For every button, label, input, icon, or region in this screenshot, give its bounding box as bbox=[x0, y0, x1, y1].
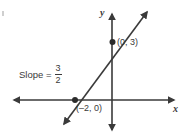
point-label-y-intercept: (0, 3) bbox=[117, 38, 138, 47]
point-marker-y-intercept bbox=[110, 39, 116, 45]
slope-annotation: Slope = 3 2 bbox=[19, 64, 62, 85]
graph-figure: y x (0, 3) (–2, 0) Slope = 3 2 bbox=[0, 0, 190, 139]
axis-label-y: y bbox=[100, 8, 104, 18]
point-label-x-intercept: (–2, 0) bbox=[76, 104, 102, 113]
axis-label-x: x bbox=[173, 104, 178, 114]
slope-prefix-text: Slope = bbox=[19, 70, 52, 80]
slope-fraction: 3 2 bbox=[55, 64, 62, 85]
slope-numerator: 3 bbox=[55, 64, 62, 74]
slope-denominator: 2 bbox=[55, 75, 62, 85]
